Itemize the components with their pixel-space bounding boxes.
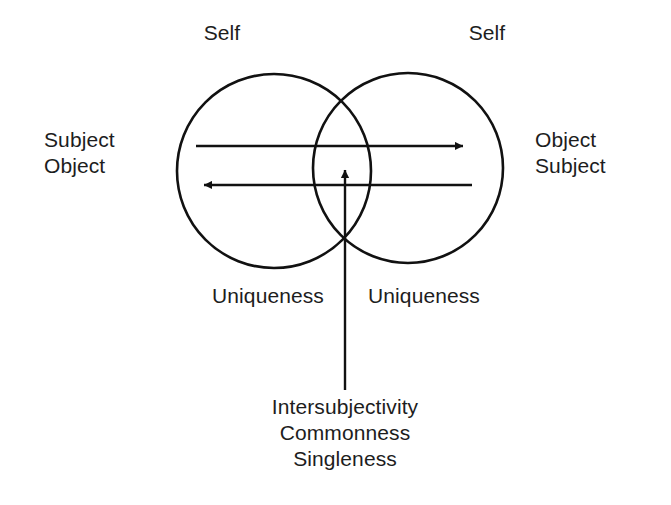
label-commonness: Commonness (272, 420, 418, 446)
label-self-left: Self (204, 20, 241, 46)
label-right-object: Object (535, 127, 606, 153)
label-uniqueness-right: Uniqueness (368, 283, 480, 309)
label-right-subject: Subject (535, 153, 606, 179)
diagram-canvas: Self Self Subject Object Object Subject … (0, 0, 671, 505)
label-self-right: Self (469, 20, 506, 46)
label-overlap-caption: Intersubjectivity Commonness Singleness (272, 394, 418, 472)
label-left-subject: Subject (44, 127, 115, 153)
label-left-side: Subject Object (44, 127, 115, 179)
label-left-object: Object (44, 153, 115, 179)
label-uniqueness-left: Uniqueness (212, 283, 324, 309)
circle-icon-right-self (313, 73, 503, 263)
label-intersubjectivity: Intersubjectivity (272, 394, 418, 420)
circle-icon-left-self (177, 74, 371, 268)
label-singleness: Singleness (272, 446, 418, 472)
label-right-side: Object Subject (535, 127, 606, 179)
